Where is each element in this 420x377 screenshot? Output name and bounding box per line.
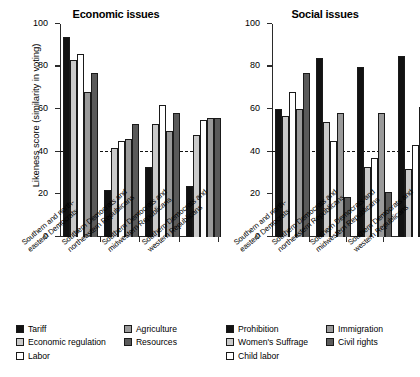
legend-swatch-icon (124, 325, 132, 333)
legend-label: Labor (28, 351, 50, 361)
legend-item: Women's Suffrage (226, 337, 308, 347)
y-tick-label-80: 80 (250, 60, 260, 70)
legend-item: Prohibition (226, 324, 308, 334)
bar (152, 124, 159, 237)
legend-item: Economic regulation (16, 337, 106, 347)
y-tick-label-40: 40 (250, 146, 260, 156)
legend-swatch-icon (226, 352, 234, 360)
legend-economic: TariffEconomic regulationLabor Agricultu… (16, 324, 177, 361)
bar (193, 135, 200, 237)
panel-title-social: Social issues (240, 8, 410, 20)
legend-label: Agriculture (136, 324, 177, 334)
bar (323, 122, 330, 237)
legend-swatch-icon (226, 325, 234, 333)
y-tick-label-80: 80 (38, 60, 48, 70)
legend-social: ProhibitionWomen's SuffrageChild labor I… (226, 324, 383, 361)
legend-item: Child labor (226, 351, 308, 361)
y-tick-label-100: 100 (245, 18, 260, 28)
legend-item: Immigration (326, 324, 383, 334)
legend-swatch-icon (16, 325, 24, 333)
legend-item: Civil rights (326, 337, 383, 347)
legend-item: Resources (124, 337, 177, 347)
legend-item: Tariff (16, 324, 106, 334)
bar (200, 120, 207, 237)
legend-swatch-icon (326, 325, 334, 333)
y-tick-label-60: 60 (250, 103, 260, 113)
legend-label: Women's Suffrage (238, 337, 308, 347)
legend-label: Economic regulation (28, 337, 106, 347)
legend-swatch-icon (226, 338, 234, 346)
figure-root: Likeness score (similarity in voting) Ec… (0, 0, 420, 377)
y-axis-title: Likeness score (similarity in voting) (30, 16, 41, 216)
legend-column-1: TariffEconomic regulationLabor (16, 324, 106, 361)
legend-swatch-icon (16, 352, 24, 360)
y-tick-label-60: 60 (38, 103, 48, 113)
legend-label: Immigration (338, 324, 383, 334)
legend-swatch-icon (124, 338, 132, 346)
y-tick-label-20: 20 (250, 188, 260, 198)
panel-title-economic: Economic issues (26, 8, 206, 20)
legend-label: Child labor (238, 351, 279, 361)
legend-swatch-icon (326, 338, 334, 346)
legend-label: Prohibition (238, 324, 279, 334)
legend-label: Civil rights (338, 337, 378, 347)
legend-item: Labor (16, 351, 106, 361)
legend-column-1: ProhibitionWomen's SuffrageChild labor (226, 324, 308, 361)
legend-column-2: ImmigrationCivil rights (326, 324, 383, 361)
legend-item: Agriculture (124, 324, 177, 334)
y-tick-label-100: 100 (33, 18, 48, 28)
bar (159, 105, 166, 237)
legend-swatch-icon (16, 338, 24, 346)
category-labels-economic: Southern and north-eastern DemocratsSout… (38, 240, 220, 318)
legend-column-2: AgricultureResources (124, 324, 177, 361)
legend-label: Tariff (28, 324, 46, 334)
category-labels-social: Southern and north-eastern DemocratsSout… (248, 240, 420, 318)
y-tick-label-20: 20 (38, 188, 48, 198)
legend-label: Resources (136, 337, 177, 347)
y-tick-label-40: 40 (38, 146, 48, 156)
